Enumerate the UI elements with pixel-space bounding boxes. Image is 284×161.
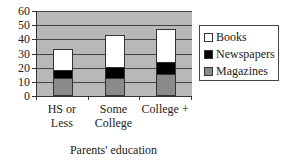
legend-item: Magazines	[204, 63, 274, 80]
bar-segment-magazines	[53, 79, 73, 96]
legend-label: Newspapers	[216, 47, 275, 62]
y-tick-label: 0	[0, 90, 30, 102]
bar-segment-newspapers	[156, 63, 176, 74]
gridline	[37, 11, 192, 12]
y-tick-label: 40	[0, 33, 30, 45]
legend-label: Magazines	[216, 64, 268, 79]
bar-segment-magazines	[156, 75, 176, 96]
y-tick-label: 60	[0, 5, 30, 17]
bar-segment-books	[156, 29, 176, 63]
legend-item: Books	[204, 29, 274, 46]
y-tick-label: 50	[0, 19, 30, 31]
y-tick-label: 20	[0, 62, 30, 74]
bar-segment-books	[105, 35, 125, 68]
y-tick-label: 10	[0, 76, 30, 88]
bar-segment-books	[53, 49, 73, 70]
legend-swatch-icon	[204, 67, 213, 76]
legend-swatch-icon	[204, 33, 213, 42]
x-tick-label: College +	[135, 102, 195, 116]
plot-area	[36, 11, 192, 96]
x-axis-line	[36, 96, 191, 97]
legend-item: Newspapers	[204, 46, 274, 63]
bar-segment-magazines	[105, 79, 125, 96]
bar-segment-newspapers	[105, 68, 125, 79]
legend-label: Books	[216, 30, 247, 45]
y-tick-mark	[32, 25, 36, 26]
y-tick-mark	[32, 54, 36, 55]
gridline	[37, 25, 192, 26]
bar-stack	[105, 35, 125, 96]
legend-swatch-icon	[204, 50, 213, 59]
x-axis-title: Parents' education	[36, 143, 191, 158]
bar-stack	[156, 29, 176, 96]
y-tick-mark	[32, 11, 36, 12]
bar-segment-newspapers	[53, 71, 73, 80]
x-tick-mark	[36, 96, 37, 100]
legend: BooksNewspapersMagazines	[199, 25, 279, 81]
y-tick-mark	[32, 82, 36, 83]
y-tick-label: 30	[0, 48, 30, 60]
x-tick-mark	[88, 96, 89, 100]
y-tick-mark	[32, 39, 36, 40]
y-tick-mark	[32, 68, 36, 69]
bar-stack	[53, 49, 73, 96]
x-tick-mark	[191, 96, 192, 100]
x-tick-mark	[139, 96, 140, 100]
